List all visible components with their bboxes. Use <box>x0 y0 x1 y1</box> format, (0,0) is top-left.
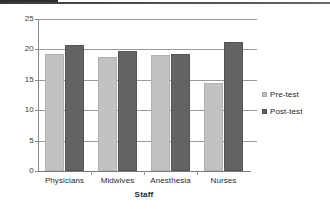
y-axis-tick-outer <box>251 49 257 50</box>
legend-item-post-test: Post-test <box>262 105 328 118</box>
bar-physicians-pre-test <box>45 54 64 171</box>
x-axis-tick <box>91 171 92 175</box>
y-axis-tick-label: 25 <box>2 15 34 23</box>
y-axis-tick-outer <box>251 141 257 142</box>
y-axis-tick-outer <box>251 110 257 111</box>
y-axis-tick-outer <box>251 19 257 20</box>
bar-chart-figure: 0510152025 Staff Pre-test Post-test Phys… <box>0 0 330 209</box>
legend-swatch-pre-test-icon <box>262 92 267 97</box>
bar-midwives-post-test <box>118 51 137 171</box>
x-axis-label-nurses: Nurses <box>184 176 264 185</box>
bar-nurses-post-test <box>224 42 243 172</box>
x-axis-title: Staff <box>0 190 288 199</box>
y-axis-tick-label: 10 <box>2 106 34 114</box>
page-edge-artifact <box>0 2 330 4</box>
y-axis-tick-label: 20 <box>2 45 34 53</box>
y-axis-tick-label: 15 <box>2 76 34 84</box>
bar-nurses-pre-test <box>204 83 223 171</box>
y-axis-tick-outer <box>251 80 257 81</box>
bar-anesthesia-post-test <box>171 54 190 171</box>
bars-layer <box>38 19 250 171</box>
y-axis-tick-label: 5 <box>2 137 34 145</box>
y-axis-tick-label: 0 <box>2 167 34 175</box>
bar-midwives-pre-test <box>98 57 117 171</box>
legend-label-pre-test: Pre-test <box>270 90 299 99</box>
x-axis-tick <box>144 171 145 175</box>
x-axis-tick <box>197 171 198 175</box>
legend-label-post-test: Post-test <box>270 107 302 116</box>
bar-anesthesia-pre-test <box>151 55 170 171</box>
legend-swatch-post-test-icon <box>262 109 267 114</box>
chart-legend: Pre-test Post-test <box>262 88 328 122</box>
legend-item-pre-test: Pre-test <box>262 88 328 101</box>
bar-physicians-post-test <box>65 45 84 171</box>
